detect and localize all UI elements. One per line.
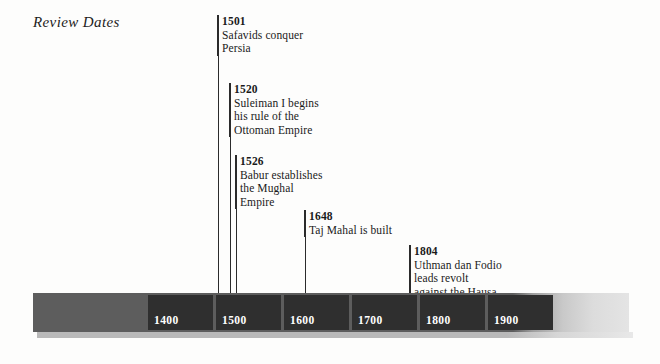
event-description-line: Taj Mahal is built [309, 224, 392, 238]
event-year: 1501 [222, 15, 303, 29]
event-block-1520: 1520 Suleiman I begins his rule of the O… [229, 83, 319, 137]
timeline-bar: 1400 1500 1600 1700 1800 1900 [33, 293, 629, 332]
event-description-line: Persia [222, 42, 303, 56]
event-description-line: Suleiman I begins [234, 97, 319, 111]
event-year: 1526 [240, 155, 323, 169]
event-description-line: Ottoman Empire [234, 124, 319, 138]
timeline-figure: Review Dates 1501 Safavids conquer Persi… [0, 0, 660, 364]
event-year: 1804 [414, 245, 502, 259]
decade-cell-1900: 1900 [488, 295, 553, 330]
decade-cell-1800: 1800 [420, 295, 485, 330]
event-description-line: his rule of the [234, 110, 319, 124]
decade-cell-1700: 1700 [352, 295, 417, 330]
decade-label: 1800 [426, 314, 451, 326]
event-description-line: Babur establishes [240, 169, 323, 183]
event-year: 1648 [309, 210, 392, 224]
decade-label: 1700 [358, 314, 383, 326]
event-description-line: Safavids conquer [222, 29, 303, 43]
event-description-line: leads revolt [414, 272, 502, 286]
leader-line-1501 [218, 15, 219, 294]
decade-label: 1400 [154, 314, 179, 326]
decade-cell-1600: 1600 [284, 295, 349, 330]
page-title: Review Dates [33, 14, 120, 31]
event-description-line: Empire [240, 196, 323, 210]
decade-label: 1500 [222, 314, 247, 326]
timeline-bar-shadow [37, 332, 633, 338]
event-block-1526: 1526 Babur establishes the Mughal Empire [235, 155, 323, 209]
decade-label: 1900 [494, 314, 519, 326]
event-block-1648: 1648 Taj Mahal is built [304, 210, 392, 237]
event-block-1804: 1804 Uthman dan Fodio leads revolt again… [409, 245, 502, 299]
decade-cell-1500: 1500 [216, 295, 281, 330]
event-description-line: Uthman dan Fodio [414, 259, 502, 273]
event-description-line: the Mughal [240, 182, 323, 196]
event-block-1501: 1501 Safavids conquer Persia [217, 15, 303, 56]
decade-label: 1600 [290, 314, 315, 326]
decade-cell-1400: 1400 [148, 295, 213, 330]
event-year: 1520 [234, 83, 319, 97]
